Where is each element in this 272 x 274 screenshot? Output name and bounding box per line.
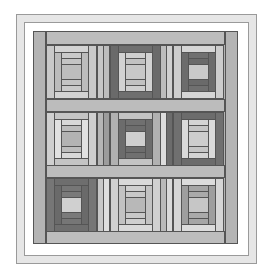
block-outer-bottom (118, 224, 153, 232)
sashing-horizontal (46, 165, 225, 178)
block-center-bottom (125, 79, 146, 86)
block-center-bottom (188, 79, 209, 86)
block-outer-bottom (118, 91, 153, 99)
block-center-bottom (61, 79, 82, 86)
block-middle-right (208, 185, 216, 225)
block-middle-bottom (188, 85, 209, 92)
block-outer-bottom (54, 158, 89, 166)
block-center (188, 131, 209, 147)
block-outer-right (215, 112, 224, 166)
block-middle-bottom (61, 218, 82, 225)
block-outer-right (152, 45, 161, 99)
block-outer-bottom (118, 158, 153, 166)
block-outer-right (88, 112, 97, 166)
block-middle-right (81, 119, 89, 159)
block-outer-right (152, 112, 161, 166)
sashing-vertical (166, 45, 173, 99)
block-outer-bottom (54, 91, 89, 99)
block-middle-bottom (61, 152, 82, 159)
block-center (125, 64, 146, 80)
sashing-vertical (166, 178, 173, 232)
block-outer-right (88, 45, 97, 99)
block-center-bottom (61, 146, 82, 153)
block-center (125, 197, 146, 213)
block-outer-bottom (181, 91, 216, 99)
block-middle-bottom (188, 152, 209, 159)
block-middle-right (81, 52, 89, 92)
block-center-bottom (125, 146, 146, 153)
block-outer-bottom (181, 158, 216, 166)
block-middle-right (208, 119, 216, 159)
block-center-bottom (61, 212, 82, 219)
block-middle-right (81, 185, 89, 225)
quilt-border-bottom (46, 231, 225, 244)
sashing-vertical (103, 45, 110, 99)
block-middle-right (145, 119, 153, 159)
block-outer-right (215, 178, 224, 232)
quilt-border-left (33, 31, 46, 244)
block-center (61, 197, 82, 213)
sashing-vertical (166, 112, 173, 166)
block-outer-right (215, 45, 224, 99)
block-middle-bottom (125, 218, 146, 225)
block-middle-bottom (125, 152, 146, 159)
block-center-bottom (188, 212, 209, 219)
block-center-bottom (125, 212, 146, 219)
quilt-border-top (46, 31, 225, 45)
block-outer-bottom (54, 224, 89, 232)
block-outer-bottom (181, 224, 216, 232)
block-outer-right (88, 178, 97, 232)
block-middle-right (145, 52, 153, 92)
block-center (61, 131, 82, 147)
block-middle-right (208, 52, 216, 92)
block-center-bottom (188, 146, 209, 153)
block-center (61, 64, 82, 80)
quilt-border-right (225, 31, 238, 244)
block-middle-bottom (61, 85, 82, 92)
sashing-vertical (103, 178, 110, 232)
sashing-vertical (103, 112, 110, 166)
block-center (125, 131, 146, 147)
block-outer-right (152, 178, 161, 232)
block-middle-bottom (188, 218, 209, 225)
block-middle-bottom (125, 85, 146, 92)
block-middle-right (145, 185, 153, 225)
block-center (188, 64, 209, 80)
block-center (188, 197, 209, 213)
sashing-horizontal (46, 99, 225, 112)
